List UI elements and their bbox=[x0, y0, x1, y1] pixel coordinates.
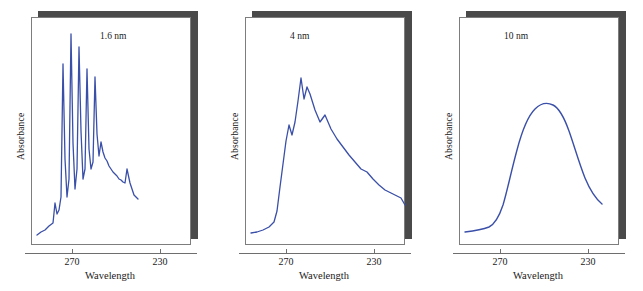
panel-2-tick-230 bbox=[374, 249, 375, 254]
panel-1-spectrum-curve bbox=[31, 17, 191, 245]
panel-1-tick-270 bbox=[72, 249, 73, 254]
panel-2-y-axis-label: Absorbance bbox=[230, 113, 240, 160]
panel-1-x-axis bbox=[25, 253, 197, 254]
panel-1-ticklabel-270: 270 bbox=[65, 256, 80, 267]
panel-3-y-axis-label: Absorbance bbox=[444, 113, 454, 160]
panel-2-tick-270 bbox=[286, 249, 287, 254]
panel-3-spectrum-curve bbox=[459, 17, 619, 245]
panel-1-x-axis-label: Wavelength bbox=[85, 270, 135, 281]
panel-3-ticklabel-230: 230 bbox=[581, 256, 596, 267]
panel-3-tick-230 bbox=[588, 249, 589, 254]
panel-2-spectrum-curve bbox=[245, 17, 405, 245]
spectrum-panel-3: Absorbance 10 nm 270 230 Wavelength bbox=[428, 0, 642, 291]
panel-3-x-axis bbox=[453, 253, 625, 254]
panel-3-ticklabel-270: 270 bbox=[493, 256, 508, 267]
spectrum-panel-2: Absorbance 4 nm 270 230 Wavelength bbox=[214, 0, 428, 291]
panel-2-x-axis bbox=[239, 253, 411, 254]
panel-2-title: 4 nm bbox=[290, 31, 309, 41]
panel-1-y-axis-label: Absorbance bbox=[16, 113, 26, 160]
spectrum-panel-1: Absorbance 1.6 nm 270 230 Wavelength bbox=[0, 0, 214, 291]
panel-2-ticklabel-270: 270 bbox=[279, 256, 294, 267]
panel-3-x-axis-label: Wavelength bbox=[513, 270, 563, 281]
panel-1-title: 1.6 nm bbox=[100, 31, 126, 41]
panel-3-tick-270 bbox=[500, 249, 501, 254]
panel-2-x-axis-label: Wavelength bbox=[299, 270, 349, 281]
spectra-figure: Absorbance 1.6 nm 270 230 Wavelength Abs… bbox=[0, 0, 643, 291]
panel-1-tick-230 bbox=[160, 249, 161, 254]
panel-3-title: 10 nm bbox=[504, 31, 528, 41]
panel-2-ticklabel-230: 230 bbox=[367, 256, 382, 267]
panel-1-ticklabel-230: 230 bbox=[153, 256, 168, 267]
